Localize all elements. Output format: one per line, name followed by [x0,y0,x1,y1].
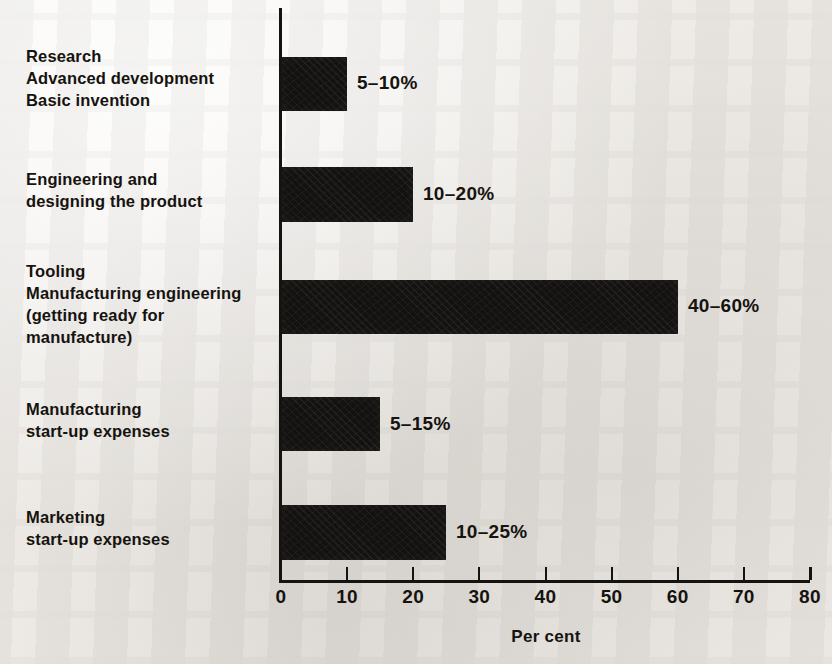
x-axis-tick [412,567,414,580]
category-label: Tooling Manufacturing engineering (getti… [26,261,271,349]
x-axis-tick-label: 80 [799,586,821,608]
x-axis-line [279,580,810,583]
x-axis-tick [346,567,348,580]
bar-value-label: 10–20% [423,183,495,205]
x-axis-tick-label: 70 [733,586,755,608]
bar [281,505,446,560]
x-axis-tick [478,567,480,580]
bar [281,167,413,222]
bar-value-label: 5–10% [357,72,418,94]
x-axis-tick [809,567,812,580]
bar [281,397,380,451]
x-axis-title-text: Per cent [511,627,581,646]
category-label: Marketing start-up expenses [26,507,271,551]
x-axis-tick-label: 20 [402,586,424,608]
bar-value-label: 10–25% [456,521,528,543]
x-axis-tick-label: 10 [336,586,358,608]
bar [281,280,678,334]
category-label: Research Advanced development Basic inve… [26,46,271,112]
x-axis-tick [677,567,679,580]
x-axis-tick [545,567,547,580]
x-axis-tick [611,567,613,580]
x-axis-tick [743,567,745,580]
category-label: Manufacturing start-up expenses [26,399,271,443]
category-label: Engineering and designing the product [26,169,271,213]
x-axis-tick-label: 30 [468,586,490,608]
plot-area: Research Advanced development Basic inve… [0,0,832,664]
x-axis-tick-label: 50 [601,586,623,608]
x-axis-tick-label: 40 [535,586,557,608]
bar-chart: Research Advanced development Basic inve… [0,0,832,664]
bar-value-label: 5–15% [390,413,451,435]
x-axis-tick-label: 60 [667,586,689,608]
x-axis-tick [279,567,282,580]
x-axis-title: Per cent [0,627,832,647]
bar [281,57,347,111]
y-axis-line [279,8,282,583]
bar-value-label: 40–60% [688,295,760,317]
x-axis-tick-label: 0 [276,586,287,608]
